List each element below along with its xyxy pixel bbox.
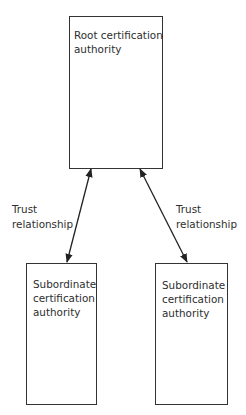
- root-ca-label: Root certification authority: [74, 28, 163, 56]
- subordinate-ca-right-label: Subordinate certification authority: [162, 278, 225, 320]
- trust-relationship-right-label: Trust relationship: [176, 202, 237, 231]
- trust-relationship-left-label: Trust relationship: [12, 202, 73, 231]
- subordinate-ca-left-label: Subordinate certification authority: [33, 277, 96, 319]
